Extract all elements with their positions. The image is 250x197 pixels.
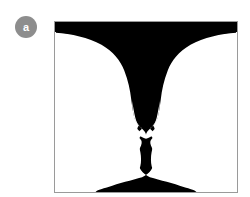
panel-label-badge: a (15, 16, 37, 38)
figure-panel: a (0, 0, 250, 197)
rubin-vase-illustration (55, 22, 237, 192)
panel-label-text: a (23, 22, 29, 33)
illustration-frame (54, 21, 238, 193)
